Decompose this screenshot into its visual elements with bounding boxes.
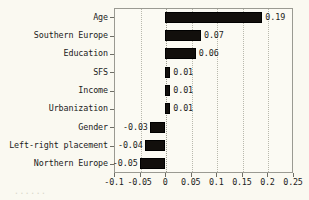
bar-value-label: 0.19 [265,13,285,22]
category-label: Income [0,86,108,95]
x-tick-label: -0.05 [127,178,151,187]
y-tick [110,36,114,37]
y-tick [110,146,114,147]
category-label: Northern Europe [0,159,108,168]
y-tick [110,17,114,18]
bar [165,30,201,41]
bar-value-label: 0.01 [173,104,193,113]
y-tick [110,127,114,128]
y-tick [110,72,114,73]
y-tick [110,54,114,55]
x-tick-label: 0.2 [260,178,275,187]
bar [165,85,170,96]
x-tick-label: -0.1 [104,178,123,187]
bar [165,103,170,114]
bar [150,122,165,133]
category-label: Education [0,49,108,58]
bar-value-label: 0.01 [173,68,193,77]
bar [165,12,262,23]
clipped-caption-text: ...... [14,192,47,196]
x-tick-label: 0.15 [232,178,251,187]
category-label: Age [0,13,108,22]
bar [145,140,165,151]
bar-chart: AgeSouthern EuropeEducationSFSIncomeUrba… [0,0,309,200]
category-label: Gender [0,123,108,132]
bar [140,158,166,169]
bar-value-label: -0.03 [123,123,148,132]
category-label: SFS [0,68,108,77]
bar-value-label: 0.07 [204,31,224,40]
category-label: Left-right placement [0,141,108,150]
x-tick-label: 0.1 [209,178,224,187]
category-label: Urbanization [0,104,108,113]
category-label: Southern Europe [0,31,108,40]
bar-value-label: -0.04 [118,141,143,150]
bar-value-label: 0.06 [199,49,219,58]
y-tick [110,109,114,110]
clipped-caption: ...... [0,192,309,200]
bar [165,48,196,59]
bar-value-label: -0.05 [113,159,138,168]
bar-value-label: 0.01 [173,86,193,95]
bar [165,67,170,78]
y-tick [110,91,114,92]
category-axis-labels: AgeSouthern EuropeEducationSFSIncomeUrba… [0,8,108,173]
x-tick-label: 0 [163,178,168,187]
x-tick-label: 0.25 [283,178,302,187]
x-tick-label: 0.05 [181,178,200,187]
